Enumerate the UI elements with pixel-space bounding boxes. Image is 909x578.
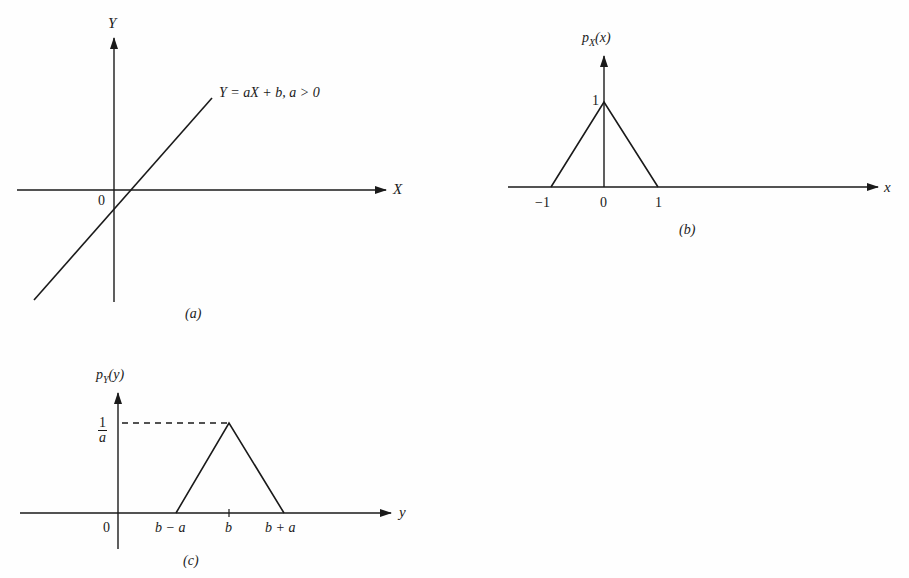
panel-c-y-label-p: p bbox=[96, 367, 103, 382]
panel-a-line-equation: Y = aX + b, a > 0 bbox=[219, 86, 320, 100]
panel-a-line bbox=[34, 98, 212, 300]
panel-b-peak-label: 1 bbox=[592, 94, 599, 108]
panel-c-graphics bbox=[20, 393, 391, 549]
panel-a-caption: (a) bbox=[185, 307, 201, 321]
panel-a-origin-label: 0 bbox=[98, 194, 105, 208]
panel-b-y-label-sub: X bbox=[589, 37, 595, 48]
panel-b-tick-neg1: −1 bbox=[535, 196, 550, 210]
figure-canvas: Y X 0 Y = aX + b, a > 0 (a) pX(x) x 1 −1… bbox=[0, 0, 909, 578]
panel-c-tick-b-minus-a: b − a bbox=[155, 521, 185, 535]
panel-c-triangle bbox=[176, 423, 284, 513]
figure-graphics bbox=[0, 0, 909, 578]
panel-b-y-axis-label: pX(x) bbox=[582, 31, 611, 45]
panel-c-peak-label: 1 a bbox=[98, 416, 107, 445]
panel-a-graphics bbox=[17, 38, 386, 302]
panel-b-x-axis-label: x bbox=[884, 180, 891, 195]
panel-c-peak-numerator: 1 bbox=[98, 416, 107, 431]
panel-c-tick-b: b bbox=[225, 521, 232, 535]
panel-b-tick-1: 1 bbox=[655, 196, 662, 210]
panel-b-y-label-p: p bbox=[582, 30, 589, 45]
panel-b-caption: (b) bbox=[679, 223, 695, 237]
panel-c-y-label-sub: Y bbox=[103, 374, 109, 385]
panel-c-caption: (c) bbox=[183, 554, 199, 568]
panel-c-y-label-arg: (y) bbox=[109, 367, 125, 382]
panel-a-y-axis-label: Y bbox=[108, 16, 116, 31]
panel-b-tick-0: 0 bbox=[600, 196, 607, 210]
panel-c-x-axis-label: y bbox=[399, 505, 406, 520]
panel-c-peak-denominator: a bbox=[99, 431, 106, 445]
panel-b-graphics bbox=[508, 56, 878, 187]
panel-b-y-label-arg: (x) bbox=[595, 30, 611, 45]
panel-a-x-axis-label: X bbox=[393, 182, 402, 197]
panel-c-tick-b-plus-a: b + a bbox=[265, 521, 295, 535]
panel-c-tick-0: 0 bbox=[103, 521, 110, 535]
panel-c-y-axis-label: pY(y) bbox=[96, 368, 124, 382]
